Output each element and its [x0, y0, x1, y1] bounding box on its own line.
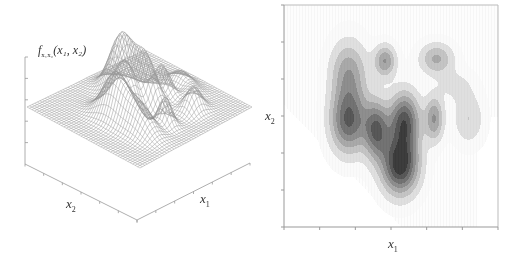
z-axis-label: fx₁x₂(x₁, x₂) [38, 43, 86, 59]
surface-plot [0, 0, 260, 260]
surface-x2-label: x2 [66, 196, 76, 214]
surface-x1-label: x1 [200, 191, 210, 209]
contour-plot [284, 5, 498, 227]
contour-x2-label: x2 [265, 108, 275, 126]
contour-x1-label: x1 [388, 236, 398, 254]
